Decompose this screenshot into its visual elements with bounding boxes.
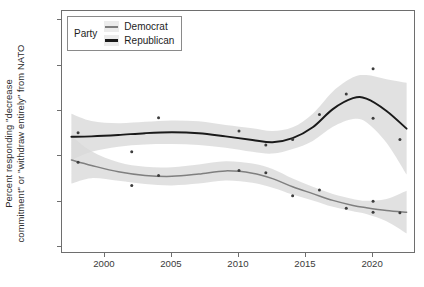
data-point-democrat	[77, 161, 80, 164]
data-point-republican	[291, 138, 294, 141]
data-point-democrat	[318, 188, 321, 191]
data-point-republican	[318, 113, 321, 116]
x-tick-mark	[305, 253, 306, 257]
confidence-ribbon-democrat	[71, 136, 406, 234]
legend-keys: Democrat Republican	[104, 21, 174, 46]
x-tick-mark	[238, 253, 239, 257]
data-point-democrat	[372, 200, 375, 203]
x-tick-label: 2015	[280, 258, 330, 269]
data-point-republican	[157, 116, 160, 119]
confidence-ribbon-republican	[71, 75, 406, 175]
data-point-democrat	[398, 211, 401, 214]
data-point-democrat	[157, 174, 160, 177]
data-point-republican	[130, 150, 133, 153]
legend-label-democrat: Democrat	[124, 21, 167, 32]
data-point-democrat	[264, 171, 267, 174]
data-point-democrat	[345, 207, 348, 210]
x-tick-mark	[171, 253, 172, 257]
x-tick-label: 2010	[213, 258, 263, 269]
data-point-republican	[77, 131, 80, 134]
legend-swatch-republican-icon	[104, 35, 119, 46]
data-point-democrat	[238, 169, 241, 172]
legend-swatch-democrat-icon	[104, 21, 119, 32]
x-tick-label: 2000	[79, 258, 129, 269]
legend-title: Party	[74, 28, 97, 39]
legend: Party Democrat Republican	[67, 16, 182, 51]
data-point-republican	[372, 67, 375, 70]
x-tick-mark	[372, 253, 373, 257]
data-point-democrat	[372, 211, 375, 214]
data-point-republican	[264, 143, 267, 146]
legend-item-republican: Republican	[104, 35, 174, 46]
data-point-democrat	[291, 194, 294, 197]
data-point-republican	[345, 93, 348, 96]
data-point-republican	[372, 117, 375, 120]
x-tick-mark	[104, 253, 105, 257]
legend-item-democrat: Democrat	[104, 21, 174, 32]
y-axis-title: Percent responding "decrease commitment"…	[0, 0, 30, 287]
data-point-republican	[238, 129, 241, 132]
legend-label-republican: Republican	[124, 35, 174, 46]
data-point-democrat	[130, 184, 133, 187]
chart-figure: Percent responding "decrease commitment"…	[0, 0, 424, 287]
x-tick-label: 2005	[146, 258, 196, 269]
x-tick-label: 2020	[347, 258, 397, 269]
data-point-republican	[398, 138, 401, 141]
